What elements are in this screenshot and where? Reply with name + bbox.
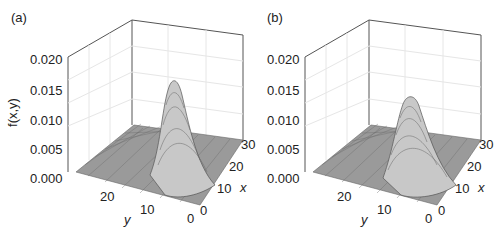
z-tick: 0.005 (267, 143, 300, 156)
z-tick: 0.020 (30, 53, 63, 66)
z-axis-label-a: f(x,y) (5, 98, 20, 127)
x-tick: 0 (200, 204, 207, 217)
z-tick: 0.010 (267, 114, 300, 127)
y-axis-label-b: y (361, 212, 368, 227)
x-tick: 20 (229, 160, 243, 173)
x-axis-label-b: x (478, 180, 485, 195)
z-tick: 0.000 (30, 172, 63, 185)
y-axis-label-a: y (124, 212, 131, 227)
z-tick: 0.015 (30, 84, 63, 97)
x-tick: 10 (455, 182, 469, 195)
x-axis-label-a: x (240, 180, 247, 195)
z-tick: 0.015 (267, 84, 300, 97)
y-tick: 0 (425, 212, 432, 225)
y-tick: 20 (100, 190, 114, 203)
x-tick: 30 (479, 138, 493, 151)
z-tick: 0.000 (267, 172, 300, 185)
panel-b: (b) 0.020 0.015 0.010 0.005 0.000 30 20 … (251, 0, 502, 237)
x-tick: 20 (467, 160, 481, 173)
y-tick: 10 (377, 203, 391, 216)
z-tick: 0.005 (30, 143, 63, 156)
z-tick: 0.020 (267, 53, 300, 66)
panel-label-a: (a) (11, 10, 27, 25)
x-tick: 0 (438, 204, 445, 217)
panel-a: (a) f(x,y) 0.020 0.015 0.010 0.005 0.000… (0, 0, 251, 237)
y-tick: 10 (140, 203, 154, 216)
panel-label-b: (b) (267, 10, 283, 25)
y-tick: 20 (337, 190, 351, 203)
x-tick: 10 (217, 182, 231, 195)
z-tick: 0.010 (30, 114, 63, 127)
y-tick: 0 (187, 212, 194, 225)
